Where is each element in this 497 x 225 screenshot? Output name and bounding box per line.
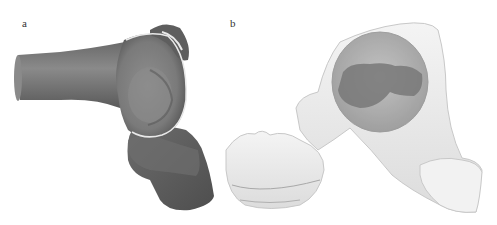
bone-render-b [0,0,497,225]
panel-label-b: b [230,17,236,29]
figure-panel-b: b [0,0,497,225]
